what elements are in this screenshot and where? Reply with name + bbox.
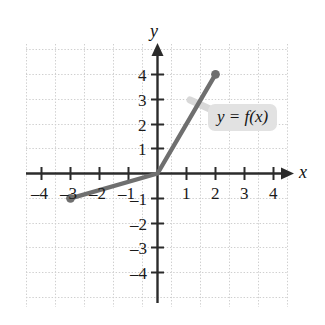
x-tick-label-neg4: –4 <box>31 185 48 202</box>
x-tick-label-neg2: –2 <box>89 185 106 202</box>
x-tick-label-1: 1 <box>182 185 191 202</box>
plot-canvas <box>0 0 325 325</box>
x-tick-label-2: 2 <box>211 185 220 202</box>
y-tick-label-3: 3 <box>138 92 147 109</box>
y-tick-label-2: 2 <box>138 117 147 134</box>
function-graph-figure: –4 –3 –2 –1 1 2 3 4 4 3 2 1 –1 –2 –3 –4 … <box>0 0 325 325</box>
y-tick-label-neg4: –4 <box>130 265 147 282</box>
y-tick-label-neg3: –3 <box>130 240 147 257</box>
y-tick-label-neg2: –2 <box>130 216 147 233</box>
y-axis-label: y <box>150 22 158 40</box>
x-tick-label-3: 3 <box>240 185 249 202</box>
function-callout-label: y = f(x) <box>208 104 277 131</box>
y-tick-label-1: 1 <box>138 141 147 158</box>
endpoint-right <box>211 70 220 79</box>
y-tick-label-4: 4 <box>138 67 147 84</box>
x-axis-label: x <box>299 163 307 181</box>
y-tick-label-neg1: –1 <box>130 191 147 208</box>
x-tick-label-neg3: –3 <box>60 185 77 202</box>
x-tick-label-4: 4 <box>269 185 278 202</box>
